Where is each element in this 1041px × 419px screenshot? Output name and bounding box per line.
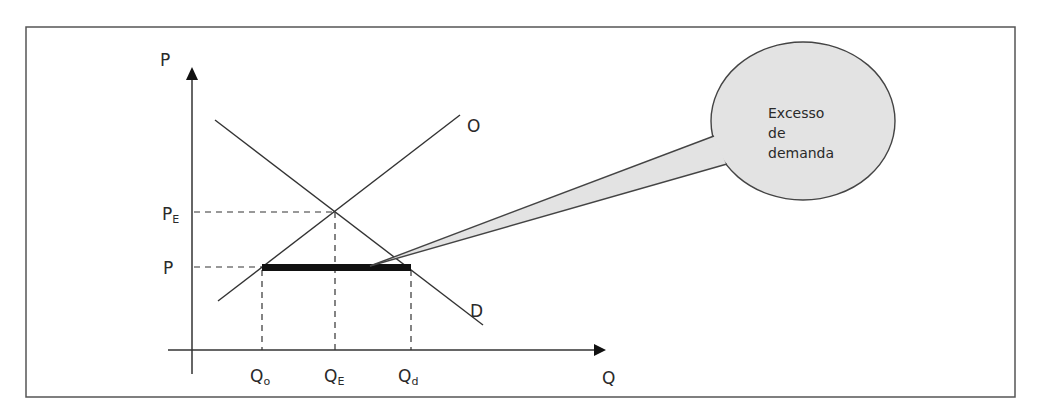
demand-curve-label: D <box>470 303 483 320</box>
callout-line: de <box>768 123 834 143</box>
equilibrium-quantity-label: QE <box>324 368 344 387</box>
demand-curve <box>215 120 483 325</box>
quantity-supplied-label: Qo <box>250 368 270 387</box>
y-axis-label: P <box>160 52 170 69</box>
y-axis-arrow-icon <box>186 67 198 80</box>
x-axis-label: Q <box>602 370 615 387</box>
excess-demand-bar <box>262 264 411 271</box>
callout-text: Excesso de demanda <box>768 103 834 163</box>
quantity-demanded-label: Qd <box>398 368 418 387</box>
guide-lines <box>194 212 411 350</box>
callout-line: Excesso <box>768 103 834 123</box>
equilibrium-price-label: PE <box>162 206 179 225</box>
price-label: P <box>163 260 173 277</box>
x-axis-arrow-icon <box>594 344 606 356</box>
diagram-canvas: P Q O D PE P Qo QE Qd Excesso de demanda <box>0 0 1041 419</box>
supply-curve-label: O <box>467 118 480 135</box>
supply-curve <box>218 115 460 301</box>
callout-line: demanda <box>768 143 834 163</box>
